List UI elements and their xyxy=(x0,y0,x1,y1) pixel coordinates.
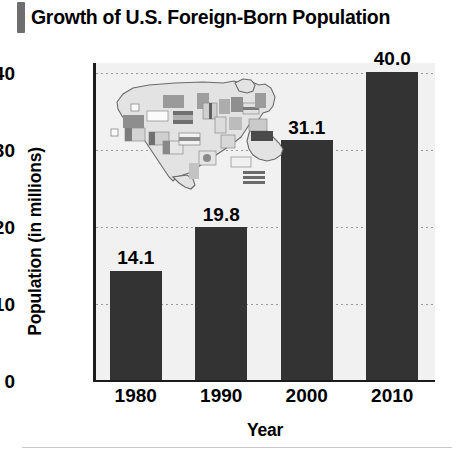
y-tick-label: 40 xyxy=(0,64,15,83)
y-tick-label: 30 xyxy=(0,141,15,160)
x-tick-label: 1990 xyxy=(176,386,266,405)
x-tick-label: 2000 xyxy=(262,386,352,405)
title-accent-bar xyxy=(17,2,25,33)
y-tick-label: 10 xyxy=(0,295,15,314)
bar xyxy=(366,72,418,380)
y-axis-title: Population (in millions) xyxy=(25,102,46,382)
chart-header: Growth of U.S. Foreign-Born Population xyxy=(0,0,458,38)
y-tick-label: 20 xyxy=(0,218,15,237)
x-axis-title: Year xyxy=(93,420,437,441)
footer-divider xyxy=(22,447,452,448)
bar-value-label: 31.1 xyxy=(261,118,353,137)
y-tick-label: 0 xyxy=(0,372,15,391)
bar-value-label: 19.8 xyxy=(175,205,267,224)
bar-value-label: 40.0 xyxy=(346,49,438,68)
x-tick-label: 1980 xyxy=(91,386,181,405)
bar xyxy=(110,271,162,380)
plot-area: 14.119.831.140.0 xyxy=(93,63,435,382)
x-tick-label: 2010 xyxy=(347,386,437,405)
bar xyxy=(195,227,247,379)
x-axis-line xyxy=(93,380,435,383)
bar xyxy=(281,140,333,379)
bar-value-label: 14.1 xyxy=(90,248,182,267)
y-axis-line xyxy=(93,63,96,382)
page-title: Growth of U.S. Foreign-Born Population xyxy=(31,3,390,31)
